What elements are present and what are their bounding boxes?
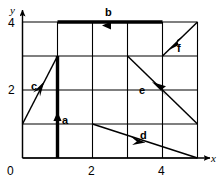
vector-a (53, 56, 61, 158)
vector-f-label: f (177, 42, 181, 54)
vector-e-label: e (139, 84, 145, 96)
y-tick-label-2: 2 (8, 83, 15, 97)
y-axis-label: y (9, 4, 15, 16)
vector-e-arrowhead (152, 82, 167, 96)
vector-c-label: c (31, 80, 37, 92)
x-tick-label-2: 2 (88, 164, 95, 178)
x-tick-label-4: 4 (158, 164, 165, 178)
axes (23, 10, 211, 158)
vector-a-label: a (62, 114, 69, 126)
vector-f-arrowhead (168, 36, 183, 51)
vector-b-label: b (105, 6, 112, 18)
grid-lines (23, 22, 198, 158)
x-axis-label: x (210, 152, 216, 164)
vector-grid-canvas: x y 0 2 4 2 4 a b c d (0, 0, 219, 185)
vector-d-label: d (140, 129, 147, 141)
y-tick-label-4: 4 (8, 16, 15, 30)
vector-diagram-figure: x y 0 2 4 2 4 a b c d (0, 0, 219, 185)
vector-b (58, 21, 163, 29)
x-tick-label-0: 0 (7, 164, 14, 178)
vector-a-arrowhead (53, 112, 61, 121)
